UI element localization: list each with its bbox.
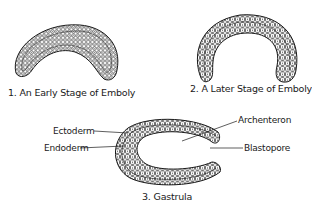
embryology-diagram: 1. An Early Stage of Emboly 2. A Later S… <box>0 0 312 211</box>
early-emboly-figure <box>15 25 118 80</box>
diagram-drawings <box>0 0 312 211</box>
figure-1-caption: 1. An Early Stage of Emboly <box>8 88 135 98</box>
ectoderm-label: Ectoderm <box>53 127 95 136</box>
figure-3-caption: 3. Gastrula <box>142 192 192 202</box>
blastopore-label: Blastopore <box>244 144 290 153</box>
endoderm-label: Endoderm <box>44 144 89 153</box>
figure-2-caption: 2. A Later Stage of Emboly <box>190 84 312 94</box>
later-emboly-figure <box>197 15 297 82</box>
archenteron-label: Archenteron <box>238 116 291 125</box>
gastrula-figure <box>115 119 220 185</box>
